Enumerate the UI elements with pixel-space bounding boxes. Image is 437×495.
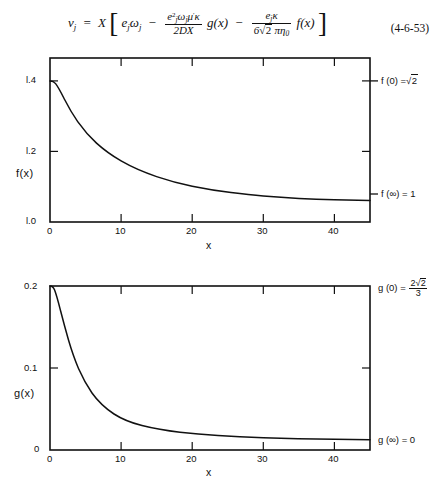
g-plot-frame (50, 286, 370, 450)
f-annotation-ticks (370, 81, 378, 194)
g-top-ticks (121, 286, 334, 294)
g-annotation-zero-lead: g (0) = (378, 282, 406, 293)
g-x-tick-40: 40 (328, 453, 339, 464)
g-x-tick-30: 30 (257, 453, 268, 464)
f-right-ticks (362, 81, 370, 151)
f-x-tick-10: 10 (115, 225, 126, 236)
f-curve-path (50, 81, 370, 200)
g-y-tick-0_1: 0.1 (24, 362, 37, 373)
f-x-tick-20: 20 (186, 225, 197, 236)
f-bottom-ticks (121, 214, 334, 222)
bracket-open-icon: [ (109, 10, 118, 37)
fraction-g-coefficient: e2jωjμ′κ 2DX (165, 11, 202, 37)
g-plot-canvas (0, 272, 437, 482)
f-y-tick-1_4: l.4 (26, 74, 36, 85)
g-x-tick-20: 20 (186, 453, 197, 464)
f-annotation-infinity: f (∞) = 1 (381, 188, 416, 199)
equation-number: (4-6-53) (391, 22, 429, 34)
g-curve-path (50, 286, 370, 440)
sqrt-icon: √2 (406, 75, 418, 86)
g-x-tick-0: 0 (47, 453, 52, 464)
equation-block: vj = X [ ejωj − e2jωjμ′κ 2DX g(x) − ejκ … (0, 8, 437, 44)
f-y-tick-1_0: l.0 (26, 215, 36, 226)
f-annotation-zero-lead: f (0) = (381, 75, 406, 86)
f-left-ticks (50, 81, 58, 151)
figure-g-plot: g(x) 0.2 0.1 0 0 10 20 30 40 x g (0) = 2… (0, 272, 437, 482)
g-annotation-fraction: 2√2 3 (409, 278, 427, 299)
f-plot-canvas (0, 52, 437, 257)
f-top-ticks (121, 58, 334, 66)
f-x-tick-0: 0 (47, 225, 52, 236)
f-plot-frame (50, 58, 370, 222)
g-annotation-num-radicand: 2 (420, 278, 426, 288)
g-annotation-infinity: g (∞) = 0 (378, 434, 415, 445)
f-annotation-zero: f (0) =√2 (381, 74, 418, 86)
f-x-axis-title: x (206, 239, 211, 251)
g-y-tick-0_2: 0.2 (24, 280, 37, 291)
g-x-tick-10: 10 (115, 453, 126, 464)
g-annotation-zero: g (0) = 2√2 3 (378, 278, 427, 299)
f-x-tick-30: 30 (257, 225, 268, 236)
g-annotation-den: 3 (409, 289, 427, 298)
sqrt-icon: √2 (415, 278, 426, 288)
bracket-close-icon: ] (318, 10, 327, 37)
g-y-axis-title: g(x) (14, 387, 35, 399)
g-y-tick-0: 0 (34, 443, 39, 454)
f-annotation-zero-radicand: 2 (411, 74, 417, 86)
f-x-tick-40: 40 (328, 225, 339, 236)
fraction-f-coefficient: ejκ 6√2 πη0 (252, 10, 292, 38)
g-x-axis-title: x (206, 466, 211, 478)
f-y-tick-1_2: l.2 (26, 145, 36, 156)
f-y-axis-title: f(x) (16, 167, 33, 179)
g-bottom-ticks (121, 442, 334, 450)
equation-formula: vj = X [ ejωj − e2jωjμ′κ 2DX g(x) − ejκ … (68, 10, 327, 38)
figure-f-plot: f(x) l.4 l.2 l.0 0 10 20 30 40 x f (0) =… (0, 52, 437, 257)
